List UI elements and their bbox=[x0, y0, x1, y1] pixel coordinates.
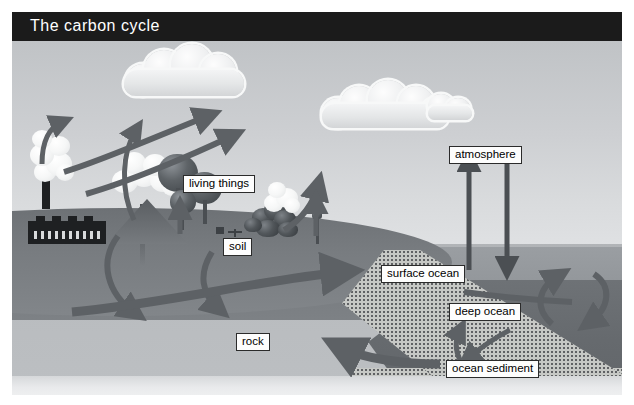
carbon-cycle-figure: The carbon cycle bbox=[0, 0, 634, 405]
arrow-living-things-to-atmosphere bbox=[64, 116, 208, 172]
arrow-sediment-to-deep-ocean bbox=[456, 330, 460, 360]
arrow-factory-to-atmosphere bbox=[42, 122, 62, 164]
label-ocean-sediment: ocean sediment bbox=[446, 360, 539, 378]
label-soil: soil bbox=[223, 238, 252, 256]
flow-arrows bbox=[12, 12, 622, 395]
label-atmosphere: atmosphere bbox=[449, 146, 522, 164]
label-living-things: living things bbox=[183, 175, 255, 193]
arrow-rock-to-ocean-sediment bbox=[342, 348, 440, 364]
arrow-deep-ocean-downwelling bbox=[590, 274, 606, 322]
arrow-bush-to-atmosphere bbox=[284, 186, 318, 230]
arrow-deep-ocean-to-sediment bbox=[468, 330, 510, 358]
arrow-rock-segment bbox=[464, 292, 572, 302]
label-surface-ocean: surface ocean bbox=[381, 265, 465, 283]
label-deep-ocean: deep ocean bbox=[449, 303, 521, 321]
arrow-soil-to-rock-right bbox=[203, 252, 218, 308]
label-rock: rock bbox=[236, 333, 270, 351]
diagram-canvas: The carbon cycle bbox=[12, 12, 622, 395]
